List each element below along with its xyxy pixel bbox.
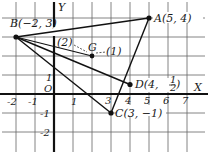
svg-text:5: 5: [144, 95, 150, 106]
point-A: [146, 15, 151, 20]
svg-text:1: 1: [71, 96, 77, 107]
svg-text:-1: -1: [40, 108, 50, 119]
label-D: D(4, 1 2 ): [134, 74, 180, 93]
ratio-label-BG: (2): [57, 36, 73, 49]
point-G: [90, 54, 95, 59]
svg-text:): ): [175, 78, 180, 91]
y-tick-labels: 1 -1 -2: [40, 72, 52, 138]
svg-text:-1: -1: [28, 96, 38, 107]
point-B: [13, 34, 18, 39]
svg-text:7: 7: [182, 95, 189, 106]
coordinate-diagram: B(−2, 3) A(5, 4) C(3, −1) D(4, 1 2 ) G (…: [0, 0, 211, 156]
x-axis-label: X: [193, 81, 203, 94]
y-axis-label: Y: [58, 1, 67, 14]
svg-text:-2: -2: [40, 127, 50, 138]
label-B: B(−2, 3): [9, 17, 57, 30]
svg-text:D(4,: D(4,: [134, 78, 159, 91]
svg-text:3: 3: [105, 95, 111, 106]
origin-label: O: [44, 83, 52, 94]
svg-text:1: 1: [46, 72, 52, 83]
svg-text:-2: -2: [7, 96, 17, 107]
svg-text:4: 4: [124, 95, 131, 106]
label-C: C(3, −1): [115, 107, 162, 120]
ratio-label-GD: (1): [106, 45, 122, 58]
label-G: G: [88, 41, 97, 54]
svg-text:6: 6: [163, 95, 170, 106]
label-A: A(5, 4): [153, 12, 192, 25]
point-D: [127, 82, 132, 87]
point-C: [108, 110, 113, 115]
